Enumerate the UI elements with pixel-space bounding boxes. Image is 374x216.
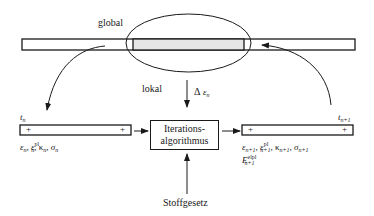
right-plus-right: +	[342, 125, 347, 134]
right-time-label: tn+1	[338, 113, 351, 123]
right-state-variables: εn+1, εpln+1, κn+1, σn+1	[242, 141, 309, 153]
sep: ,	[46, 142, 48, 152]
right-plus-left: +	[248, 125, 253, 134]
label-lokal: lokal	[142, 84, 162, 94]
label-delta-eps: Δ εn	[194, 87, 209, 98]
label-material-law: Stoffgesetz	[163, 198, 208, 208]
sep: ,	[27, 142, 29, 152]
time-sub: n+1	[341, 117, 351, 123]
var-E-sub: n+1	[245, 160, 255, 166]
subscript-n: n	[206, 92, 209, 98]
local-element-shaded	[133, 39, 244, 50]
sep: ,	[34, 142, 36, 152]
sep: ,	[270, 142, 272, 152]
arrow-right-state-to-global	[262, 45, 331, 105]
iteration-algorithm-box: Iterations- algorithmus	[150, 120, 219, 150]
time-sub: n	[23, 117, 26, 123]
var-kappa-sub: n+1	[279, 147, 289, 153]
right-state-bar	[242, 125, 353, 135]
left-plus-left: +	[26, 125, 31, 134]
sep: ,	[290, 142, 292, 152]
label-global: global	[98, 18, 123, 28]
var-eps-sub: n+1	[246, 147, 256, 153]
left-plus-right: +	[120, 125, 125, 134]
left-time-label: tn	[20, 113, 26, 123]
sep: ,	[256, 142, 258, 152]
var-epspl-sub: n+1	[260, 147, 270, 153]
right-state-tangent: Eelpln+1	[242, 154, 255, 166]
var-sigma-sub: n+1	[298, 147, 308, 153]
var-sigma-sub: n	[55, 147, 58, 153]
algorithm-line2: algorithmus	[151, 135, 218, 147]
left-state-bar	[20, 125, 131, 135]
diagram-canvas	[0, 0, 374, 216]
delta-symbol: Δ	[194, 86, 200, 97]
algorithm-line1: Iterations-	[151, 123, 218, 135]
arrow-global-to-left-state	[47, 46, 105, 110]
left-state-variables: εn, εpln, κn, σn	[20, 141, 58, 153]
